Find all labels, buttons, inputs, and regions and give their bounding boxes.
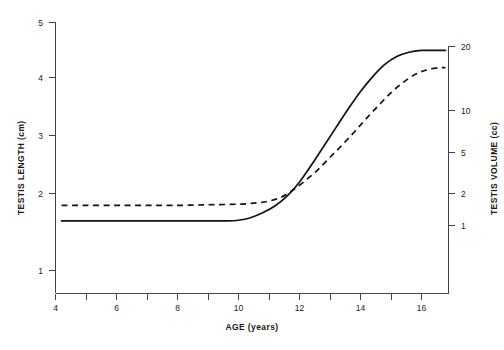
data-curves-group xyxy=(62,50,446,221)
solid-growth-curve xyxy=(62,50,446,221)
right-tick-label-20: 20 xyxy=(461,42,471,52)
x-tick-label-4: 4 xyxy=(53,303,58,313)
x-tick-label-16: 16 xyxy=(417,303,427,313)
x-tick-label-14: 14 xyxy=(356,303,366,313)
right-tick-label-1: 1 xyxy=(461,221,466,231)
right-tick-label-2: 2 xyxy=(461,189,466,199)
chart-canvas: 5 4 3 2 1 TESTIS LENGTH (cm) 4 6 8 xyxy=(0,0,504,350)
x-tick-label-8: 8 xyxy=(175,303,180,313)
right-tick-label-5: 5 xyxy=(461,148,466,158)
right-tick-label-10: 10 xyxy=(461,106,471,116)
left-tick-label-3: 3 xyxy=(38,131,43,141)
left-axis-group: 5 4 3 2 1 TESTIS LENGTH (cm) xyxy=(16,18,56,293)
right-axis-group: 20 10 5 2 1 TESTIS VOLUME (cc) xyxy=(449,42,500,293)
right-axis-title: TESTIS VOLUME (cc) xyxy=(489,122,499,215)
bottom-axis-title: AGE (years) xyxy=(225,322,278,332)
dashed-growth-curve xyxy=(62,68,446,206)
x-tick-label-12: 12 xyxy=(295,303,305,313)
x-tick-label-6: 6 xyxy=(114,303,119,313)
left-tick-label-4: 4 xyxy=(38,73,43,83)
x-tick-label-10: 10 xyxy=(234,303,244,313)
bottom-axis-group: 4 6 8 10 12 14 16 AGE (years) xyxy=(53,294,448,333)
figure-container: 5 4 3 2 1 TESTIS LENGTH (cm) 4 6 8 xyxy=(0,0,504,350)
left-axis-title: TESTIS LENGTH (cm) xyxy=(16,120,26,215)
left-tick-label-2: 2 xyxy=(38,189,43,199)
left-tick-label-5: 5 xyxy=(38,18,43,28)
left-tick-label-1: 1 xyxy=(38,266,43,276)
